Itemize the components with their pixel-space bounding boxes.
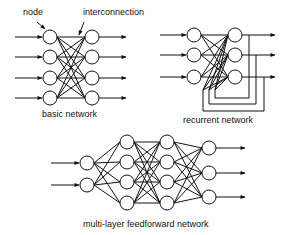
node-circle <box>120 135 134 149</box>
node-circle <box>202 141 216 155</box>
interconnection-line <box>94 142 120 163</box>
node-circle <box>160 155 174 169</box>
node-circle <box>187 28 201 42</box>
node-circle <box>160 135 174 149</box>
multilayer-feedforward-network <box>51 135 245 210</box>
recurrent-network-caption: recurrent network <box>183 116 253 125</box>
node-pointer-arrow <box>37 22 45 29</box>
node-circle <box>202 166 216 180</box>
node-circle <box>80 178 94 192</box>
node-circle <box>85 71 99 85</box>
node-circle <box>187 48 201 62</box>
node-circle <box>228 48 242 62</box>
basic-network <box>15 22 126 105</box>
node-circle <box>43 30 57 44</box>
node-circle <box>228 70 242 84</box>
node-circle <box>80 156 94 170</box>
node-circle <box>43 50 57 64</box>
multilayer-network-caption: multi-layer feedforward network <box>83 220 209 229</box>
node-circle <box>43 71 57 85</box>
recurrent-network <box>160 28 275 111</box>
node-circle <box>85 30 99 44</box>
basic-network-caption: basic network <box>42 110 97 119</box>
node-circle <box>187 70 201 84</box>
node-circle <box>85 91 99 105</box>
node-circle <box>120 175 134 189</box>
interconnection-line <box>94 185 120 203</box>
node-circle <box>160 175 174 189</box>
interconnection-pointer-arrow <box>79 22 84 35</box>
node-circle <box>85 50 99 64</box>
node-circle <box>160 196 174 210</box>
node-circle <box>120 155 134 169</box>
node-circle <box>120 196 134 210</box>
interconnection-annotation-label: interconnection <box>83 8 144 17</box>
node-circle <box>228 28 242 42</box>
node-circle <box>202 190 216 204</box>
node-annotation-label: node <box>23 8 43 17</box>
node-circle <box>43 91 57 105</box>
